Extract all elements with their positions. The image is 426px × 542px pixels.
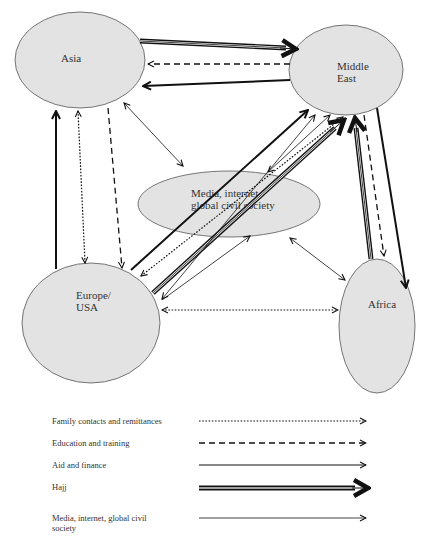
arrow-asia-europe-family <box>78 111 85 263</box>
node-asia: Asia <box>15 12 145 108</box>
node-europe-usa-label-1: Europe/ <box>76 289 112 301</box>
node-middle-east: Middle East <box>289 25 403 115</box>
flow-diagram: Asia Middle East Media, internet, global… <box>0 0 426 542</box>
node-africa-label: Africa <box>368 298 396 310</box>
arrow-asia-media-link <box>124 103 183 166</box>
arrow-asia-to-europe-education <box>108 108 122 268</box>
node-asia-label: Asia <box>61 52 81 64</box>
node-middle-east-label-1: Middle <box>337 60 369 72</box>
arrow-middle-east-to-asia-aid <box>143 80 290 86</box>
legend-lines <box>199 421 368 518</box>
node-middle-east-label-2: East <box>337 72 356 84</box>
arrow-media-africa-link <box>290 238 345 280</box>
node-media-label-1: Media, internet, <box>191 187 261 199</box>
arrow-africa-to-middle-east-hajj <box>355 118 371 259</box>
node-europe-usa: Europe/ USA <box>22 263 160 383</box>
node-europe-usa-label-2: USA <box>76 301 98 313</box>
arrow-asia-to-middle-east-hajj <box>140 41 296 49</box>
